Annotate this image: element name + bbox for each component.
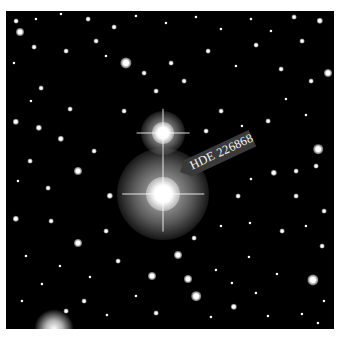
- star: [269, 29, 272, 32]
- star: [324, 69, 332, 77]
- star: [304, 224, 307, 227]
- star: [275, 272, 278, 275]
- star: [236, 194, 241, 199]
- star: [284, 97, 287, 100]
- star: [49, 219, 54, 224]
- star: [88, 275, 91, 278]
- star: [104, 54, 107, 57]
- star: [219, 224, 222, 227]
- star: [320, 244, 325, 249]
- star: [240, 124, 243, 127]
- star: [249, 177, 252, 180]
- star: [254, 43, 259, 48]
- star: [74, 239, 82, 247]
- star: [219, 27, 222, 30]
- star: [194, 15, 197, 18]
- star: [209, 315, 212, 318]
- star: [40, 282, 43, 285]
- star: [148, 272, 156, 280]
- star: [304, 113, 307, 116]
- star: [184, 275, 192, 283]
- star: [16, 28, 24, 36]
- star: [300, 312, 303, 315]
- star: [39, 86, 44, 91]
- star: [64, 49, 69, 54]
- star: [34, 17, 37, 20]
- star: [122, 109, 127, 114]
- star: [107, 193, 113, 199]
- star: [134, 14, 137, 17]
- star: [280, 229, 285, 234]
- star-field-photo: HDE 226868: [6, 11, 334, 329]
- star: [266, 119, 271, 124]
- star: [28, 159, 33, 164]
- star: [247, 255, 250, 258]
- star: [204, 129, 209, 134]
- star: [307, 274, 318, 285]
- star: [271, 170, 277, 176]
- star: [12, 61, 15, 64]
- star: [182, 79, 187, 84]
- star: [314, 164, 319, 169]
- star: [248, 221, 251, 224]
- star: [309, 79, 314, 84]
- star: [105, 313, 108, 316]
- star: [16, 179, 19, 182]
- star: [266, 314, 269, 317]
- star: [82, 299, 87, 304]
- star: [254, 291, 257, 294]
- star: [104, 229, 109, 234]
- star: [317, 18, 323, 24]
- star: [322, 299, 325, 302]
- star: [249, 17, 252, 20]
- star: [214, 268, 217, 271]
- star: [32, 45, 37, 50]
- star: [58, 136, 64, 142]
- star: [142, 71, 147, 76]
- star: [36, 125, 42, 131]
- star: [120, 57, 131, 68]
- star: [313, 144, 323, 154]
- star: [20, 299, 23, 302]
- diffraction-spike: [163, 157, 164, 232]
- star: [300, 39, 305, 44]
- star: [174, 251, 182, 259]
- star: [322, 209, 327, 214]
- star: [316, 321, 319, 324]
- star: [279, 67, 284, 72]
- star: [29, 99, 32, 102]
- star: [231, 304, 237, 310]
- star: [169, 61, 174, 66]
- star: [219, 109, 224, 114]
- star: [206, 49, 211, 54]
- star: [92, 149, 97, 154]
- star: [94, 39, 99, 44]
- star: [68, 107, 73, 112]
- star: [164, 21, 167, 24]
- star: [13, 119, 19, 125]
- star: [86, 17, 91, 22]
- star: [234, 64, 237, 67]
- star: [134, 294, 137, 297]
- star: [294, 194, 299, 199]
- star: [46, 186, 51, 191]
- star: [13, 216, 19, 222]
- star: [192, 236, 197, 241]
- star: [59, 12, 62, 15]
- star: [154, 89, 159, 94]
- star: [58, 264, 61, 267]
- star-label-text: HDE 226868: [187, 131, 255, 173]
- star: [14, 19, 19, 24]
- star: [230, 281, 233, 284]
- star: [64, 309, 69, 314]
- star: [112, 25, 117, 30]
- star: [74, 167, 82, 175]
- star: [116, 259, 121, 264]
- star: [154, 311, 159, 316]
- star: [292, 15, 297, 20]
- star: [24, 254, 27, 257]
- star: [191, 291, 201, 301]
- star: [294, 169, 299, 174]
